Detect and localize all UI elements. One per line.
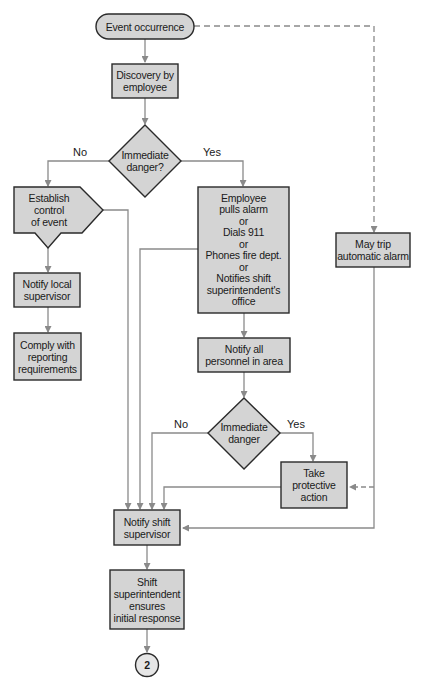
node-notifylocal-shape [14,273,80,307]
node-notifyall-shape [198,338,290,372]
edge-decision2-no [152,433,208,509]
node-superintendent-shape [110,570,184,629]
edge-decision1-yes [181,161,243,186]
node-discovery-shape [112,64,178,98]
node-notifyshift-shape [114,510,180,545]
edge-protective-notifyshift [164,487,281,509]
node-establish-shape [14,187,103,248]
edge-establish-notifyshift [103,210,128,509]
label-decision2-no: No [174,418,188,430]
label-decision1-yes: Yes [203,146,221,158]
node-employee-shape [198,187,289,313]
edge-decision1-no [48,161,109,186]
label-decision2-yes: Yes [287,418,305,430]
node-protective-shape [281,462,347,508]
flowchart-canvas [0,0,422,687]
node-start-shape [96,14,194,39]
node-autoalarm-shape [336,233,410,267]
edge-decision2-yes [280,433,313,461]
node-connector2-shape [136,654,159,677]
node-comply-shape [14,333,81,380]
node-decision1-shape [109,125,181,197]
node-decision2-shape [208,398,280,469]
edge-employee-notifyshift [140,249,198,509]
label-decision1-no: No [73,146,87,158]
